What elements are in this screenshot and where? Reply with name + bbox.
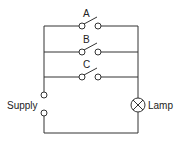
switch-b: B xyxy=(44,34,138,55)
switch-a-label: A xyxy=(83,8,90,19)
circuit-diagram: A B C Supply Lamp xyxy=(0,0,184,141)
switch-c-label: C xyxy=(83,59,90,70)
switch-b-label: B xyxy=(83,34,90,45)
switch-a-right-contact xyxy=(95,23,101,29)
switch-c: C xyxy=(44,59,138,80)
lamp: Lamp xyxy=(131,98,173,112)
supply: Supply xyxy=(7,92,47,116)
supply-positive-terminal xyxy=(41,92,47,98)
switch-b-right-contact xyxy=(95,49,101,55)
supply-negative-terminal xyxy=(41,110,47,116)
supply-label: Supply xyxy=(7,100,38,111)
switch-c-right-contact xyxy=(95,74,101,80)
lamp-label: Lamp xyxy=(148,100,173,111)
switch-a: A xyxy=(44,8,138,29)
